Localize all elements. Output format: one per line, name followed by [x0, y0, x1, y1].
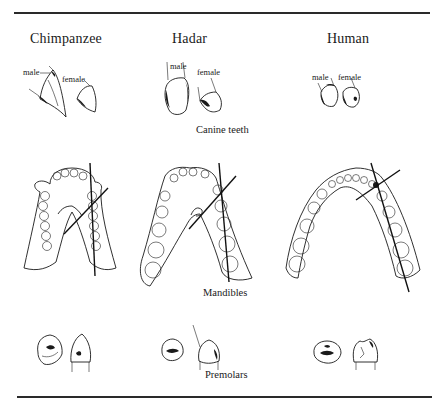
hadar-male-canine-icon: [165, 62, 189, 115]
human-premolar-occlusal-icon: [314, 341, 341, 363]
hadar-premolar-occlusal-icon: [162, 339, 183, 361]
human-male-canine-icon: [318, 78, 338, 107]
hadar-premolar-lateral-icon: [193, 325, 219, 370]
hadar-mandible-icon: [140, 163, 252, 286]
chimp-female-canine-icon: [77, 80, 96, 112]
chimp-mandible-icon: [24, 163, 116, 276]
chimp-male-canine-icon: [29, 66, 66, 117]
human-female-canine-icon: [343, 78, 359, 107]
hadar-female-canine-icon: [198, 78, 221, 112]
chimp-premolar-occlusal-icon: [38, 335, 63, 365]
human-premolar-lateral-icon: [353, 339, 377, 370]
chimp-premolar-lateral-icon: [71, 334, 91, 372]
human-mandible-icon: [286, 163, 420, 292]
anatomy-illustration: [0, 0, 439, 409]
